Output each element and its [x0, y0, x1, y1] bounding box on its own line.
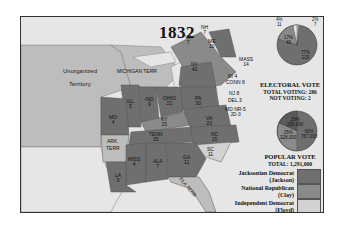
state-label-pa: PA30: [195, 96, 201, 106]
electoral-vote-totals: TOTAL VOTING: 286NOT VOTING: 2: [257, 89, 323, 101]
legend-item-jacksonian: Jacksonian Democrat(Jackson): [239, 169, 322, 184]
electoral-vote-pie: [277, 25, 317, 65]
label-md: MD NR-5JD-3: [225, 107, 246, 117]
legend-item-independent: Independent Democrat(Floyd): [235, 199, 321, 213]
state-label-ga: GA11: [183, 155, 190, 165]
state-label-ny: NY42: [191, 62, 198, 72]
pv-slice-antimasonic: 20%255,000: [287, 117, 303, 127]
unorganized-territory-label: Unorganized: [63, 69, 97, 74]
state-label-nh: NH7: [201, 25, 208, 35]
state-label-ky: KY15: [161, 117, 168, 127]
michigan-territory-label: MICHIGAN TERR: [117, 69, 157, 74]
popular-vote-total: TOTAL: 1,291,000: [257, 161, 323, 167]
state-label-nc: NC15: [211, 132, 218, 142]
label-del: DEL 3: [228, 98, 242, 103]
state-label-la: LA5: [115, 173, 121, 183]
legend-swatch: [297, 199, 321, 213]
electoral-vote-title: ELECTORAL VOTE: [257, 82, 323, 89]
arkansas-territory-label: ARK: [107, 139, 117, 144]
legend-label: Jacksonian Democrat(Jackson): [239, 170, 295, 183]
ev-slice-independent: 4%11: [276, 17, 283, 27]
popular-vote-title: POPULAR VOTE: [257, 154, 323, 161]
state-label-ill: ILL5: [127, 99, 134, 109]
ev-slice-national-republican: 17%49: [284, 35, 293, 45]
legend-label: National Republican(Clay): [241, 185, 294, 198]
state-label-va: VA23: [206, 116, 212, 126]
label-nj: NJ 8: [229, 91, 239, 96]
ev-slice-jacksonian: 77%219: [301, 50, 310, 60]
pv-slice-national-republican: 25%328,000: [280, 130, 296, 140]
state-label-mo: MO4: [109, 115, 117, 125]
legend-item-national-republican: National Republican(Clay): [241, 184, 321, 199]
state-label-mass: MASS14: [239, 57, 253, 67]
ev-slice-antimasonic: 2%7: [312, 17, 319, 27]
state-label-ohio: OHIO21: [163, 96, 176, 106]
arkansas-territory-label-2: TERR: [106, 146, 120, 151]
state-label-sc: SC11: [207, 147, 214, 157]
legend-swatch: [297, 184, 321, 199]
legend-label: Independent Democrat(Floyd): [235, 200, 294, 213]
unorganized-territory-label-2: Territory: [69, 82, 91, 87]
pv-slice-jacksonian: 60%767,000: [301, 129, 317, 139]
state-label-miss: MISS4: [128, 157, 140, 167]
legend-swatch: [297, 169, 321, 184]
state-label-vt: VT7: [185, 35, 191, 45]
label-conn: CONN 8: [226, 80, 245, 85]
state-label-me: ME10: [208, 39, 216, 49]
state-label-ind: IND9: [145, 97, 154, 107]
map-frame: 1832 Unorganized Territory MICHIGAN TERR…: [20, 16, 324, 213]
state-label-ala: ALA7: [153, 159, 162, 169]
state-label-tenn: TENN15: [149, 132, 163, 142]
